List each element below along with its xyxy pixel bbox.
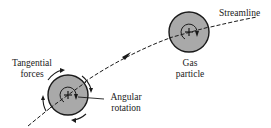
label-line: particle [172,69,208,80]
label-streamline: Streamline [219,8,260,19]
label-line: Angular [106,92,146,103]
label-tangential-forces: Tangential forces [12,58,52,80]
label-line: rotation [106,103,146,114]
right-particle [169,12,209,52]
label-angular-rotation: Angular rotation [106,92,146,114]
label-line: forces [12,69,52,80]
label-gas-particle: Gas particle [172,58,208,80]
left-particle [48,75,88,115]
label-line: Tangential [12,58,52,69]
label-line: Gas [172,58,208,69]
